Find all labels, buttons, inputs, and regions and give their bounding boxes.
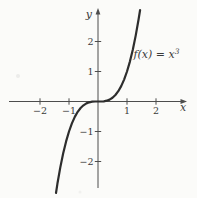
x-tick-label: −2	[33, 105, 47, 116]
y-axis-label: y	[85, 8, 93, 21]
x-tick-label: 1	[124, 105, 130, 116]
x-tick-label: −1	[62, 105, 76, 116]
y-tick-label: −2	[79, 156, 93, 167]
plot-svg: −2−112 21−1−2 y x f(x) = x3	[0, 0, 197, 198]
curve-label-exponent: 3	[175, 47, 180, 56]
y-tick-label: −1	[79, 126, 93, 137]
curve-label-text: f(x) = x3	[132, 47, 179, 62]
scan-artifact	[16, 74, 20, 78]
y-axis-arrow-icon	[96, 8, 101, 15]
figure-plot: −2−112 21−1−2 y x f(x) = x3	[0, 0, 197, 198]
curve-label-base: f(x) = x	[132, 48, 175, 61]
y-tick-label: 2	[87, 36, 93, 47]
x-tick-label: 2	[153, 105, 159, 116]
y-tick-label: 1	[87, 66, 93, 77]
x-axis-label: x	[180, 101, 187, 114]
scan-artifact	[79, 191, 82, 194]
